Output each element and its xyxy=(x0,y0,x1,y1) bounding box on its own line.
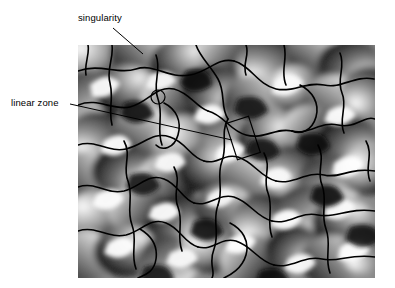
field-graphic xyxy=(78,45,375,278)
figure-container: singularity linear zone xyxy=(0,0,395,288)
linear-zone-label: linear zone xyxy=(11,97,59,108)
phase-gradient-field-image xyxy=(78,45,375,278)
singularity-label: singularity xyxy=(78,12,122,23)
